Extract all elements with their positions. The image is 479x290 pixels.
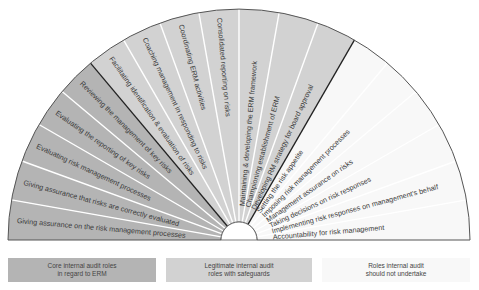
legend-not-undertake-line2: should not undertake: [366, 270, 427, 279]
legend-legitimate-line1: Legitimate internal audit: [204, 262, 273, 271]
erm-roles-fan-diagram: Giving assurance on the risk management …: [0, 0, 479, 250]
legend-not-undertake-line1: Roles internal audit: [366, 262, 427, 271]
legend-core-roles: Core internal audit roles in regard to E…: [8, 258, 156, 282]
legend-legitimate-roles: Legitimate internal audit roles with saf…: [166, 258, 312, 282]
legend-legitimate-line2: roles with safeguards: [204, 270, 273, 279]
legend-core-line2: in regard to ERM: [47, 270, 116, 279]
legend-not-undertake-roles: Roles internal audit should not undertak…: [322, 258, 470, 282]
legend-core-line1: Core internal audit roles: [47, 262, 116, 271]
